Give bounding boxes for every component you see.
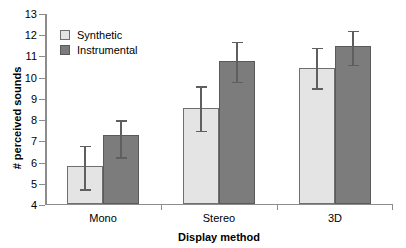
error-bar-line	[352, 31, 354, 65]
y-tick-label: 12	[0, 30, 37, 41]
x-axis-line	[45, 204, 393, 206]
legend-item-synthetic: Synthetic	[60, 27, 138, 42]
y-tick-label: 4	[0, 200, 37, 211]
legend-swatch-icon-synthetic	[60, 30, 70, 40]
x-tick-mark	[161, 205, 162, 210]
error-bar-cap-upper	[232, 42, 243, 44]
y-tick-label: 6	[0, 158, 37, 169]
y-tick-mark	[39, 184, 45, 185]
x-tick-mark	[277, 205, 278, 210]
y-tick-mark	[39, 35, 45, 36]
x-category-label-3d: 3D	[277, 212, 393, 224]
y-tick-mark	[39, 56, 45, 57]
legend-item-instrumental: Instrumental	[60, 42, 138, 57]
y-tick-label: 10	[0, 73, 37, 84]
error-bar-cap-lower	[80, 189, 91, 191]
error-bar-cap-lower	[312, 88, 323, 90]
y-tick-mark	[39, 205, 45, 206]
error-bar-line	[84, 146, 86, 190]
y-tick-label: 13	[0, 9, 37, 20]
y-tick-label: 8	[0, 115, 37, 126]
error-bar-cap-upper	[312, 48, 323, 50]
y-tick-mark	[39, 141, 45, 142]
legend-label-synthetic: Synthetic	[77, 29, 122, 41]
error-bar-cap-lower	[116, 157, 127, 159]
bar-3d-instrumental	[335, 46, 371, 203]
legend-swatch-icon-instrumental	[60, 45, 70, 55]
error-bar-line	[316, 48, 318, 88]
bar-chart: # perceived sounds 45678910111213 MonoSt…	[0, 0, 406, 248]
error-bar-cap-lower	[196, 131, 207, 133]
y-tick-label: 11	[0, 51, 37, 62]
error-bar-cap-upper	[116, 120, 127, 122]
y-axis-line	[45, 14, 47, 205]
error-bar-cap-lower	[232, 82, 243, 84]
legend-label-instrumental: Instrumental	[77, 44, 138, 56]
y-tick-label: 9	[0, 94, 37, 105]
y-tick-mark	[39, 14, 45, 15]
error-bar-cap-lower	[348, 65, 359, 67]
y-tick-label: 7	[0, 136, 37, 147]
x-tick-mark	[392, 205, 393, 210]
y-tick-mark	[39, 163, 45, 164]
x-category-label-mono: Mono	[45, 212, 161, 224]
y-tick-mark	[39, 120, 45, 121]
error-bar-line	[200, 86, 202, 131]
error-bar-cap-upper	[80, 146, 91, 148]
y-tick-mark	[39, 99, 45, 100]
y-tick-mark	[39, 78, 45, 79]
error-bar-line	[120, 120, 122, 157]
error-bar-line	[236, 42, 238, 82]
legend: Synthetic Instrumental	[60, 27, 138, 57]
error-bar-cap-upper	[348, 31, 359, 33]
error-bar-cap-upper	[196, 86, 207, 88]
y-tick-label: 5	[0, 179, 37, 190]
x-category-label-stereo: Stereo	[161, 212, 277, 224]
x-axis-title: Display method	[45, 231, 393, 243]
